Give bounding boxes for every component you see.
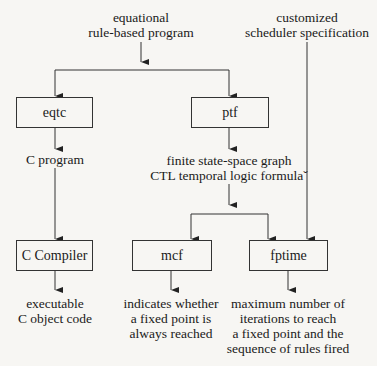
mcf-box: mcf [132, 240, 212, 271]
fptime-output-label: maximum number of iterations to reach a … [227, 296, 350, 356]
ptf-label: ptf [222, 105, 238, 121]
fptime-output-line-2: iterations to reach [227, 311, 350, 326]
input-scheduler-label: customized scheduler specification [245, 10, 369, 40]
mcf-output-label: indicates whether a fixed point is alway… [124, 296, 219, 341]
eqtc-box: eqtc [16, 97, 93, 128]
input-scheduler-line-1: customized [245, 10, 369, 25]
c-compiler-box: C Compiler [16, 240, 93, 271]
ptf-box: ptf [191, 97, 269, 128]
mcf-output-line-2: a fixed point is [124, 311, 219, 326]
c-compiler-label: C Compiler [22, 248, 88, 264]
mcf-output-line-1: indicates whether [124, 296, 219, 311]
fptime-output-line-1: maximum number of [227, 296, 350, 311]
c-program-text: C program [26, 152, 84, 167]
eqtc-label: eqtc [43, 105, 66, 121]
fptime-output-line-3: a fixed point and the [227, 326, 350, 341]
input-scheduler-line-2: scheduler specification [245, 25, 369, 40]
input-program-line-1: equational [88, 10, 193, 25]
ptf-output-line-2: CTL temporal logic formulaˇ [150, 168, 307, 183]
mcf-output-line-3: always reached [124, 326, 219, 341]
compiler-output-line-1: executable [18, 296, 92, 311]
c-program-label: C program [26, 152, 84, 167]
input-program-label: equational rule-based program [88, 10, 193, 40]
compiler-output-label: executable C object code [18, 296, 92, 326]
mcf-label: mcf [161, 248, 183, 264]
fptime-box: fptime [249, 240, 328, 271]
ptf-output-label: finite state-space graph CTL temporal lo… [150, 153, 307, 183]
compiler-output-line-2: C object code [18, 311, 92, 326]
ptf-output-line-1: finite state-space graph [150, 153, 307, 168]
fptime-label: fptime [270, 248, 307, 264]
fptime-output-line-4: sequence of rules fired [227, 341, 350, 356]
input-program-line-2: rule-based program [88, 25, 193, 40]
